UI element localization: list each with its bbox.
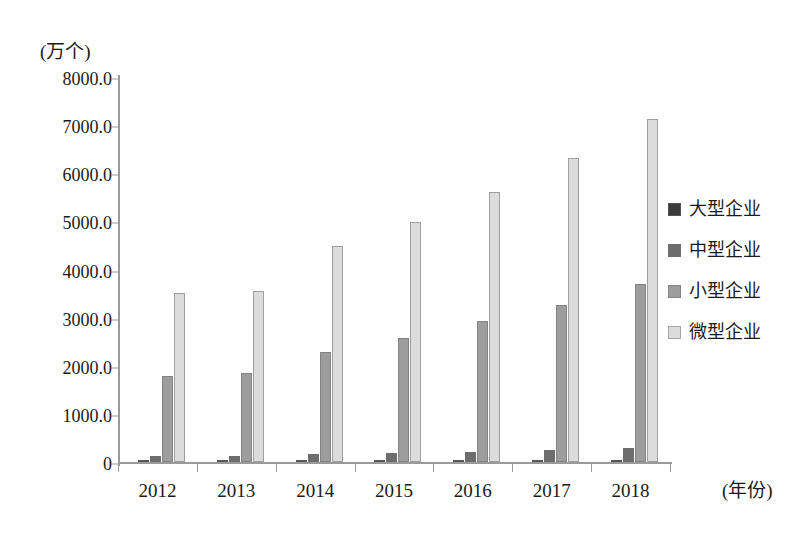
legend-label: 大型企业	[689, 200, 761, 218]
legend-swatch-icon	[668, 244, 681, 257]
legend-label: 中型企业	[689, 241, 761, 259]
bar	[544, 450, 555, 462]
bar	[410, 222, 421, 462]
bar-group	[217, 77, 264, 462]
bar-group	[374, 77, 421, 462]
y-tick-label: 1000.0	[8, 407, 112, 425]
x-tick-label: 2012	[138, 480, 176, 502]
bar	[453, 460, 464, 462]
bar	[162, 376, 173, 462]
bar	[229, 456, 240, 462]
x-tick-mark	[355, 464, 356, 472]
legend-item[interactable]: 中型企业	[668, 241, 800, 259]
bar	[647, 119, 658, 462]
bar	[489, 192, 500, 462]
bar	[174, 293, 185, 462]
x-tick-mark	[512, 464, 513, 472]
bar	[532, 460, 543, 462]
x-tick-label: 2016	[454, 480, 492, 502]
bar	[296, 460, 307, 462]
x-axis-line	[118, 462, 672, 464]
legend-item[interactable]: 微型企业	[668, 323, 800, 341]
bar-group	[296, 77, 343, 462]
legend-item[interactable]: 小型企业	[668, 282, 800, 300]
y-tick-mark	[111, 271, 118, 272]
bar	[386, 453, 397, 462]
bar	[623, 448, 634, 462]
x-tick-mark	[118, 464, 119, 472]
bar	[635, 284, 646, 462]
bar-group	[611, 77, 658, 462]
bar-chart: (万个) 01000.02000.03000.04000.05000.06000…	[0, 0, 800, 537]
bar	[308, 454, 319, 462]
bar	[556, 305, 567, 462]
bar	[320, 352, 331, 462]
bar	[217, 460, 228, 462]
legend-swatch-icon	[668, 285, 681, 298]
bar-group	[138, 77, 185, 462]
x-tick-mark	[433, 464, 434, 472]
y-tick-mark	[111, 319, 118, 320]
bar	[465, 452, 476, 462]
bar	[332, 246, 343, 462]
chart-legend: 大型企业中型企业小型企业微型企业	[668, 200, 800, 364]
y-tick-mark	[111, 79, 118, 80]
y-tick-mark	[111, 464, 118, 465]
bar-group	[453, 77, 500, 462]
bar	[150, 456, 161, 462]
bar	[477, 321, 488, 462]
y-tick-mark	[111, 367, 118, 368]
y-tick-mark	[111, 127, 118, 128]
y-axis-unit-label: (万个)	[40, 36, 91, 63]
y-tick-mark	[111, 175, 118, 176]
x-axis-title: (年份)	[722, 475, 773, 502]
legend-label: 小型企业	[689, 282, 761, 300]
y-tick-label: 6000.0	[8, 166, 112, 184]
plot-area: 01000.02000.03000.04000.05000.06000.0700…	[118, 77, 670, 464]
y-tick-label: 2000.0	[8, 359, 112, 377]
bar	[253, 291, 264, 462]
bar	[398, 338, 409, 462]
y-tick-label: 4000.0	[8, 263, 112, 281]
x-tick-label: 2017	[533, 480, 571, 502]
legend-swatch-icon	[668, 326, 681, 339]
y-tick-label: 3000.0	[8, 311, 112, 329]
x-tick-label: 2013	[217, 480, 255, 502]
legend-item[interactable]: 大型企业	[668, 200, 800, 218]
y-tick-label: 8000.0	[8, 70, 112, 88]
bar	[374, 460, 385, 462]
x-tick-mark	[197, 464, 198, 472]
legend-label: 微型企业	[689, 323, 761, 341]
x-tick-label: 2018	[612, 480, 650, 502]
y-tick-label: 7000.0	[8, 118, 112, 136]
y-axis-line	[118, 75, 120, 466]
y-tick-label: 5000.0	[8, 214, 112, 232]
bar	[568, 158, 579, 462]
bar	[138, 460, 149, 462]
x-tick-label: 2015	[375, 480, 413, 502]
bar	[241, 373, 252, 462]
bar	[611, 460, 622, 462]
bar-group	[532, 77, 579, 462]
x-tick-label: 2014	[296, 480, 334, 502]
x-tick-mark	[276, 464, 277, 472]
x-tick-mark	[670, 464, 671, 472]
y-tick-label: 0	[8, 455, 112, 473]
legend-swatch-icon	[668, 203, 681, 216]
y-tick-mark	[111, 223, 118, 224]
x-tick-mark	[591, 464, 592, 472]
y-tick-mark	[111, 415, 118, 416]
